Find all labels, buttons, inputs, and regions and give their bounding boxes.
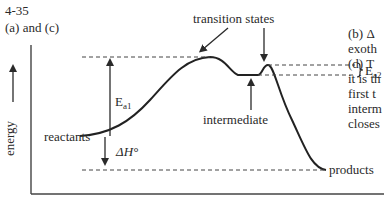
- side-line: (b) Δ: [348, 26, 382, 41]
- delta-h-label: ΔH°: [116, 145, 138, 158]
- problem-number: 4-35: [5, 4, 29, 17]
- intermediate-label: intermediate: [203, 113, 268, 126]
- y-axis-label: energy: [3, 121, 16, 156]
- ea1-label: Ea1: [115, 95, 131, 111]
- side-text-block: (b) Δ exoth (d) T it is th first t inter…: [348, 26, 382, 131]
- transition-states-label: transition states: [193, 12, 274, 25]
- side-line: it is th: [348, 71, 382, 86]
- side-line: closes: [348, 116, 382, 131]
- reactants-label: reactants: [44, 130, 90, 143]
- problem-parts: (a) and (c): [5, 21, 59, 34]
- ts1-pointer-arrow-icon: [202, 28, 228, 50]
- side-line: (d) T: [348, 56, 382, 71]
- side-line: first t: [348, 86, 382, 101]
- side-line: exoth: [348, 41, 382, 56]
- side-line: interm: [348, 101, 382, 116]
- products-label: products: [329, 163, 374, 176]
